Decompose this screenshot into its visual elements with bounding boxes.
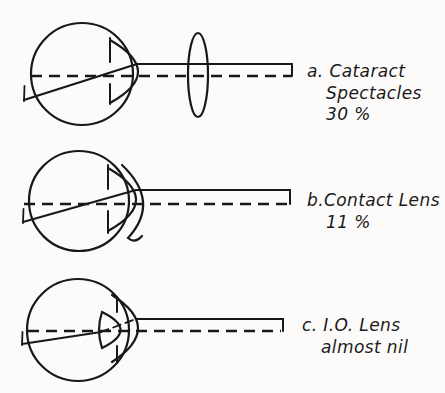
contact-lens-b xyxy=(122,165,143,241)
chief-ray-line-a xyxy=(24,64,137,100)
eye-diagram-c xyxy=(22,279,283,381)
eye-diagram-b xyxy=(23,151,290,251)
caption-c-line-2: almost nil xyxy=(302,337,408,359)
caption-b-line-2: 11 % xyxy=(307,212,440,234)
eye-diagram-a xyxy=(24,23,292,125)
chief-ray-line-b xyxy=(23,190,136,222)
caption-b: b.Contact Lens 11 % xyxy=(307,190,440,233)
chief-ray-line-c xyxy=(22,332,101,344)
retina-image-mark-a xyxy=(24,86,25,101)
aniseikonia-aphakia-figure: a. Cataract Spectacles 30 % b.Contact Le… xyxy=(0,0,445,393)
eyeball-outline-c xyxy=(27,279,129,381)
caption-b-line-1: b.Contact Lens xyxy=(307,190,440,212)
retina-image-mark-b xyxy=(23,209,24,223)
eyeball-outline-b xyxy=(29,151,129,251)
eyeball-outline-a xyxy=(31,23,133,125)
caption-a-line-2: Spectacles xyxy=(307,83,422,105)
caption-c-line-1: c. I.O. Lens xyxy=(302,315,408,337)
retina-image-mark-c xyxy=(22,332,23,345)
caption-a-line-3: 30 % xyxy=(307,104,422,126)
caption-a-line-1: a. Cataract xyxy=(307,61,422,83)
caption-a: a. Cataract Spectacles 30 % xyxy=(307,61,422,126)
caption-c: c. I.O. Lens almost nil xyxy=(302,315,408,358)
cornea-outline-c xyxy=(112,295,138,362)
